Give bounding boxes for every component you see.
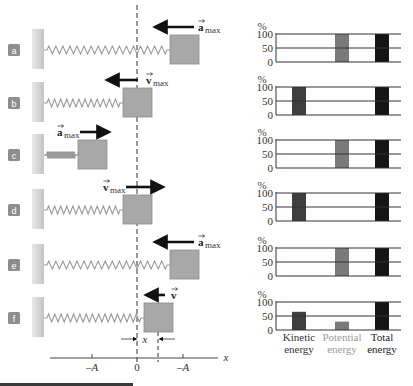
vector-subscript: max [64, 130, 80, 140]
row-f: fv [8, 288, 178, 338]
wall [32, 189, 44, 229]
y-tick-label: 50 [262, 148, 274, 160]
y-tick-label: 0 [268, 56, 274, 68]
axis-tick-neg-a: –A [85, 361, 99, 373]
displacement-label: x [142, 333, 148, 345]
row-c: camax [8, 125, 107, 175]
vector-label: v [146, 74, 152, 86]
vector-subscript: max [205, 25, 221, 35]
y-tick-label: 100 [257, 134, 274, 146]
y-tick-label: 50 [262, 201, 274, 213]
category-labels: Kinetic energy Potential energy Total en… [283, 331, 398, 355]
y-tick-label: 50 [262, 42, 274, 54]
x-axis: –A 0 –A x [50, 351, 229, 373]
vector-label: a [57, 126, 63, 138]
y-tick-label: 100 [257, 296, 274, 308]
y-tick-label: 0 [268, 162, 274, 174]
row-label: b [11, 99, 16, 109]
kinetic-label-1: Kinetic [283, 331, 315, 343]
energy-chart-d: %100500 [257, 179, 402, 227]
mass-block [123, 195, 152, 224]
row-d: dvmax [8, 180, 158, 230]
row-label: e [11, 261, 16, 271]
spring [44, 46, 170, 54]
y-tick-label: 0 [268, 215, 274, 227]
vector-subscript: max [205, 240, 221, 250]
energy-chart-a: %100500 [257, 20, 402, 68]
vector-label: v [171, 289, 177, 301]
row-a: aamax [8, 20, 221, 70]
wall [32, 134, 44, 174]
mass-block [170, 35, 199, 64]
mass-block [123, 88, 152, 117]
mass-block [78, 140, 107, 169]
spring [44, 99, 123, 107]
y-tick-label: 50 [262, 95, 274, 107]
spring [44, 206, 123, 214]
wall [32, 244, 44, 284]
y-tick-label: 50 [262, 310, 274, 322]
y-tick-label: 100 [257, 81, 274, 93]
axis-tick-zero: 0 [134, 361, 140, 373]
row-label: c [12, 151, 17, 161]
wall [32, 297, 44, 337]
y-tick-label: 0 [268, 324, 274, 336]
spring [44, 314, 144, 322]
energy-chart-b: %100500 [257, 73, 402, 121]
row-label: d [11, 206, 16, 216]
row-e: eamax [8, 235, 221, 285]
displacement-marker: x [121, 333, 175, 345]
y-tick-label: 50 [262, 256, 274, 268]
kinetic-label-2: energy [284, 343, 314, 355]
diagram-canvas: aamaxbvmaxcamaxdvmaxeamaxfv %100500%1005… [0, 0, 413, 386]
potential-label-1: Potential [322, 331, 361, 343]
wall [32, 82, 44, 122]
spring [44, 152, 78, 159]
wall [32, 29, 44, 69]
mass-block [170, 250, 199, 279]
y-tick-label: 100 [257, 28, 274, 40]
axis-label-x: x [223, 351, 229, 363]
row-b: bvmax [8, 73, 169, 123]
vector-subscript: max [153, 78, 169, 88]
vector-label: a [198, 21, 204, 33]
energy-chart-c: %100500 [257, 126, 402, 174]
mass-block [144, 303, 173, 332]
y-tick-label: 0 [268, 270, 274, 282]
energy-chart-f: %100500 [257, 288, 402, 336]
spring [44, 261, 170, 269]
potential-label-2: energy [327, 343, 357, 355]
vector-label: a [198, 236, 204, 248]
total-label-1: Total [371, 331, 393, 343]
total-label-2: energy [367, 343, 397, 355]
vector-subscript: max [110, 185, 126, 195]
energy-chart-e: %100500 [257, 234, 402, 282]
y-tick-label: 100 [257, 187, 274, 199]
potential-energy-bar [335, 322, 349, 330]
axis-tick-pos-a: –A [176, 361, 190, 373]
kinetic-energy-bar [292, 312, 306, 330]
row-label: a [11, 46, 16, 56]
y-tick-label: 100 [257, 242, 274, 254]
y-tick-label: 0 [268, 109, 274, 121]
vector-label: v [103, 181, 109, 193]
